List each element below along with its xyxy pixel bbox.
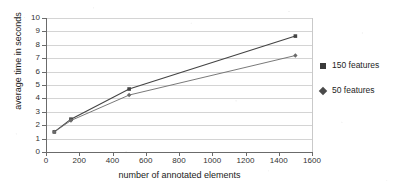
plot-area [46, 18, 312, 152]
y-tick-mark [42, 139, 46, 140]
y-tick-mark [42, 45, 46, 46]
data-point-marker [294, 34, 298, 38]
legend-item-150-features[interactable]: 150 features [318, 60, 379, 71]
y-tick-mark [42, 18, 46, 19]
x-tick-label: 1600 [292, 156, 332, 165]
chart-legend: 150 features 50 features [318, 60, 379, 110]
x-axis-title: number of annotated elements [46, 170, 313, 180]
diamond-marker-icon [318, 85, 329, 96]
y-tick-mark [42, 98, 46, 99]
y-tick-mark [42, 85, 46, 86]
y-tick-mark [42, 125, 46, 126]
y-tick-mark [42, 58, 46, 59]
data-point-marker [127, 87, 131, 91]
square-marker-icon [318, 60, 329, 71]
series-line [54, 56, 295, 132]
series-layer [46, 18, 312, 152]
data-point-marker [293, 53, 297, 57]
y-tick-mark [42, 112, 46, 113]
chart-figure: average time in seconds 012345678910 020… [0, 0, 407, 194]
legend-label-150-features: 150 features [332, 61, 379, 70]
y-tick-mark [42, 72, 46, 73]
legend-item-50-features[interactable]: 50 features [318, 85, 379, 96]
y-axis-title-container: average time in seconds [0, 0, 20, 160]
y-tick-mark [42, 31, 46, 32]
plot-right-border [312, 18, 313, 153]
data-point-marker [127, 93, 131, 97]
y-axis-line [46, 18, 47, 153]
legend-label-50-features: 50 features [332, 86, 375, 95]
